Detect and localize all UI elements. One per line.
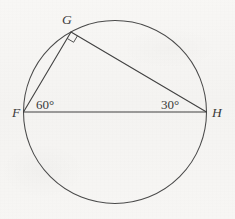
geometry-figure: F G H 60° 30°: [0, 0, 235, 219]
vertex-label-G: G: [62, 12, 72, 27]
vertex-label-H: H: [211, 105, 223, 120]
geometry-canvas: F G H 60° 30°: [0, 0, 235, 219]
angle-label-H: 30°: [161, 97, 179, 112]
angle-label-F: 60°: [36, 97, 54, 112]
segment-GH: [71, 32, 207, 112]
vertex-label-F: F: [11, 105, 21, 120]
